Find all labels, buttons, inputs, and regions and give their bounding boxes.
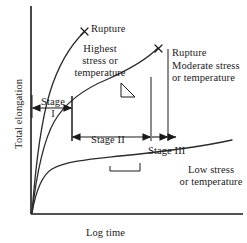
curve-label-low-stress-line-2: or temperature xyxy=(178,176,244,188)
stage-1-label: Stage I xyxy=(36,96,70,120)
x-axis-label: Log time xyxy=(86,227,125,239)
curve-label-moderate-stress-line-2: or temperature xyxy=(172,72,247,84)
rupture-x-icon-high xyxy=(81,28,88,35)
curve-label-low-stress: Low stress or temperature xyxy=(178,164,244,188)
creep-curve-figure: Total elongation Log time Rupture Highes… xyxy=(0,0,247,243)
stage-2-label: Stage II xyxy=(91,134,125,146)
slope-bracket-low xyxy=(110,163,140,171)
curve-label-highest-stress-line-3: temperature xyxy=(65,67,135,79)
stage-3-label: Stage III xyxy=(148,145,185,157)
curve-label-highest-stress-line-1: Highest xyxy=(65,43,135,55)
slope-bracket-moderate xyxy=(121,83,135,97)
creep-curve-plot xyxy=(0,0,247,243)
rupture-label-highest: Rupture xyxy=(91,23,126,35)
curve-label-highest-stress-line-2: stress or xyxy=(65,55,135,67)
curve-label-moderate-stress: Moderate stress or temperature xyxy=(172,60,247,84)
curve-label-low-stress-line-1: Low stress xyxy=(178,164,244,176)
stage-3-span-arrow xyxy=(152,134,176,140)
curve-label-highest-stress: Highest stress or temperature xyxy=(65,43,135,78)
stage-1-label-line-1: Stage xyxy=(36,96,70,108)
y-axis-label: Total elongation xyxy=(13,59,25,169)
curve-label-moderate-stress-line-1: Moderate stress xyxy=(172,60,247,72)
slope-indicators-group xyxy=(110,83,140,171)
rupture-x-icon-moderate xyxy=(155,45,162,52)
rupture-label-moderate: Rupture xyxy=(172,47,207,59)
stage-1-label-line-2: I xyxy=(36,108,70,120)
